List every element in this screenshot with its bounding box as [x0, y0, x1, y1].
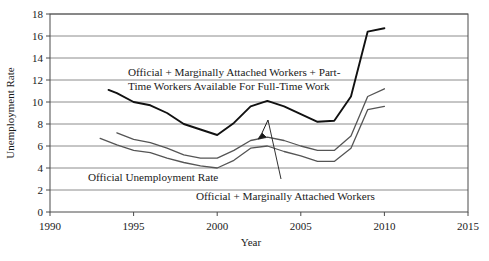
y-tick-label: 12 — [32, 74, 43, 86]
x-axis-title: Year — [241, 236, 262, 248]
annotation-top-line-2: Time Workers Available For Full-Time Wor… — [128, 80, 330, 92]
chart-background — [0, 0, 489, 261]
annotation-official-unemployment-rate: Official Unemployment Rate — [88, 171, 218, 183]
chart-container: 024681012141618 199019952000200520102015… — [0, 0, 489, 261]
x-tick-label: 2015 — [457, 220, 480, 232]
y-tick-label: 8 — [38, 118, 44, 130]
x-tick-label: 2000 — [206, 220, 229, 232]
y-tick-label: 14 — [32, 52, 44, 64]
y-tick-label: 10 — [32, 96, 44, 108]
x-tick-label: 1990 — [39, 220, 62, 232]
y-axis-title: Unemployment Rate — [4, 67, 16, 158]
y-tick-label: 4 — [38, 162, 44, 174]
x-tick-label: 2010 — [373, 220, 396, 232]
x-tick-label: 2005 — [290, 220, 313, 232]
unemployment-rate-line-chart: 024681012141618 199019952000200520102015… — [0, 0, 489, 261]
y-tick-label: 0 — [38, 206, 44, 218]
y-tick-label: 2 — [38, 184, 44, 196]
y-tick-label: 18 — [32, 8, 44, 20]
annotation-marginally-attached-workers: Official + Marginally Attached Workers — [196, 190, 375, 202]
annotation-top-line-1: Official + Marginally Attached Workers +… — [128, 66, 341, 78]
x-tick-label: 1995 — [123, 220, 146, 232]
y-tick-label: 16 — [32, 30, 44, 42]
y-tick-label: 6 — [38, 140, 44, 152]
